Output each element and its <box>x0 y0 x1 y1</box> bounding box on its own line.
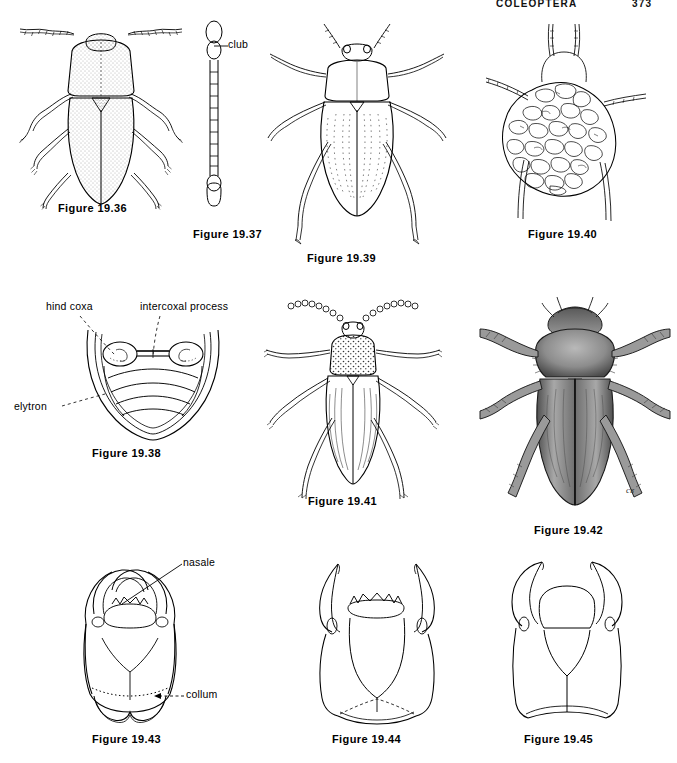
caption-19-45: Figure 19.45 <box>524 733 593 745</box>
caption-19-40: Figure 19.40 <box>528 228 597 240</box>
figure-19-38-illustration <box>58 322 248 442</box>
figure-19-39-illustration <box>262 22 452 247</box>
caption-19-44: Figure 19.44 <box>332 733 401 745</box>
annotation-club: club <box>228 38 248 50</box>
figure-19-44-illustration <box>292 556 462 726</box>
caption-19-42: Figure 19.42 <box>534 524 603 536</box>
figure-plate: COLEOPTERA 373 <box>0 0 677 763</box>
figure-19-41-illustration <box>262 300 452 500</box>
annotation-intercoxal-process: intercoxal process <box>140 300 228 312</box>
caption-19-38: Figure 19.38 <box>92 447 161 459</box>
caption-19-37: Figure 19.37 <box>193 228 262 240</box>
caption-19-39: Figure 19.39 <box>307 252 376 264</box>
annotation-nasale: nasale <box>183 556 215 568</box>
annotation-collum: collum <box>186 688 218 700</box>
running-head-title: COLEOPTERA <box>496 0 577 9</box>
figure-19-40-illustration <box>462 22 652 222</box>
figure-19-45-illustration <box>482 556 652 726</box>
page-number: 373 <box>632 0 652 9</box>
caption-19-36: Figure 19.36 <box>58 202 127 214</box>
figure-19-43-illustration <box>60 560 230 725</box>
svg-text:cʁ: cʁ <box>626 485 635 495</box>
figure-19-42-illustration: cʁ <box>480 295 670 515</box>
annotation-hind-coxa: hind coxa <box>46 300 93 312</box>
caption-19-43: Figure 19.43 <box>92 733 161 745</box>
figure-19-36-illustration <box>12 18 197 208</box>
caption-19-41: Figure 19.41 <box>308 495 377 507</box>
annotation-elytron: elytron <box>14 400 47 412</box>
